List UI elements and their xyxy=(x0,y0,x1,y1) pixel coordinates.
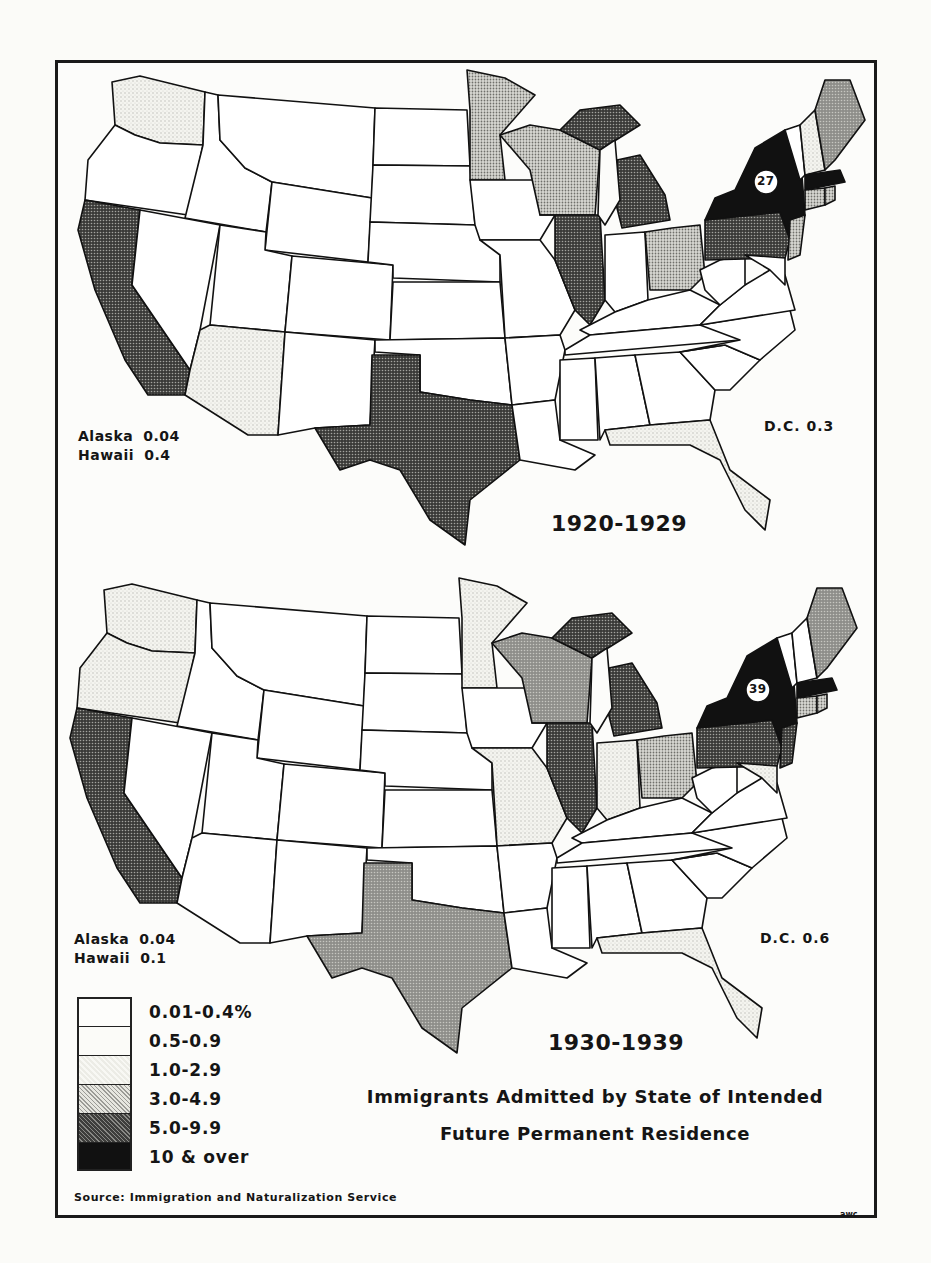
state-ms xyxy=(552,866,590,948)
legend-item: 0.5-0.9 xyxy=(77,1026,252,1055)
legend-label: 10 & over xyxy=(149,1147,249,1167)
state-nj xyxy=(780,723,797,768)
legend-label: 3.0-4.9 xyxy=(149,1089,222,1109)
legend-swatch-white xyxy=(77,997,132,1026)
state-ar xyxy=(505,335,565,405)
alaska-value: 0.04 xyxy=(143,427,180,446)
state-ct xyxy=(797,696,817,718)
lake-michigan xyxy=(590,648,612,733)
legend: 0.01-0.4% 0.5-0.9 1.0-2.9 3.0-4.9 5.0-9.… xyxy=(77,997,252,1171)
state-az xyxy=(177,833,277,943)
legend-label: 0.01-0.4% xyxy=(149,1002,252,1022)
dc-note-1930: D.C. 0.6 xyxy=(760,930,830,946)
state-in xyxy=(597,740,640,820)
state-fl xyxy=(597,928,762,1038)
state-nd xyxy=(373,108,470,166)
state-nm xyxy=(270,840,367,943)
alaska-note-1920: Alaska0.04 xyxy=(78,427,180,446)
legend-item: 0.01-0.4% xyxy=(77,997,252,1026)
credit-mark: awc xyxy=(840,1210,858,1219)
alaska-value: 0.04 xyxy=(139,930,176,949)
alaska-label: Alaska xyxy=(78,428,133,444)
state-ks xyxy=(390,282,505,340)
state-ar xyxy=(497,843,557,913)
hawaii-label: Hawaii xyxy=(74,950,130,966)
lake-michigan xyxy=(598,140,620,225)
state-sd xyxy=(362,673,467,733)
hawaii-label: Hawaii xyxy=(78,447,134,463)
state-co xyxy=(277,764,385,848)
state-oh xyxy=(645,225,705,290)
chart-title: Immigrants Admitted by State of Intended… xyxy=(340,1078,850,1152)
state-me xyxy=(815,80,865,170)
source-note: Source: Immigration and Naturalization S… xyxy=(74,1191,397,1204)
state-ri xyxy=(817,694,827,713)
legend-label: 0.5-0.9 xyxy=(149,1031,222,1051)
legend-swatch-white xyxy=(77,1026,132,1055)
state-nd xyxy=(365,616,462,674)
period-label-1930: 1930-1939 xyxy=(548,1030,684,1055)
state-sd xyxy=(370,165,475,225)
map-1920-1929 xyxy=(78,70,865,545)
legend-swatch-light-stipple xyxy=(77,1055,132,1084)
hawaii-value: 0.4 xyxy=(144,446,170,465)
callout-ny-1930: 39 xyxy=(749,680,767,699)
hawaii-value: 0.1 xyxy=(140,949,166,968)
state-ks xyxy=(382,790,497,848)
chart-title-line2: Future Permanent Residence xyxy=(340,1115,850,1152)
state-ri xyxy=(825,186,835,205)
legend-item: 5.0-9.9 xyxy=(77,1113,252,1142)
legend-label: 1.0-2.9 xyxy=(149,1060,222,1080)
state-ms xyxy=(560,358,598,440)
state-co xyxy=(285,256,393,340)
hawaii-note-1920: Hawaii0.4 xyxy=(78,446,170,465)
map-1930-1939 xyxy=(70,578,857,1053)
state-in xyxy=(605,232,648,312)
legend-swatch-medium-stipple xyxy=(77,1084,132,1113)
period-label-1920: 1920-1929 xyxy=(551,511,687,536)
legend-item: 1.0-2.9 xyxy=(77,1055,252,1084)
dc-note-1920: D.C. 0.3 xyxy=(764,418,834,434)
state-mi xyxy=(615,155,670,228)
state-az xyxy=(185,325,285,435)
state-ct xyxy=(805,188,825,210)
legend-item: 10 & over xyxy=(77,1142,252,1171)
state-oh xyxy=(637,733,697,798)
state-nj xyxy=(788,215,805,260)
state-mi xyxy=(607,663,662,736)
alaska-note-1930: Alaska0.04 xyxy=(74,930,176,949)
hawaii-note-1930: Hawaii0.1 xyxy=(74,949,166,968)
callout-ny-1920: 27 xyxy=(757,172,775,191)
state-nm xyxy=(278,332,375,435)
legend-swatch-black xyxy=(77,1142,132,1171)
alaska-label: Alaska xyxy=(74,931,129,947)
legend-item: 3.0-4.9 xyxy=(77,1084,252,1113)
chart-title-line1: Immigrants Admitted by State of Intended xyxy=(340,1078,850,1115)
legend-label: 5.0-9.9 xyxy=(149,1118,222,1138)
legend-swatch-dark-stipple xyxy=(77,1113,132,1142)
state-me xyxy=(807,588,857,678)
